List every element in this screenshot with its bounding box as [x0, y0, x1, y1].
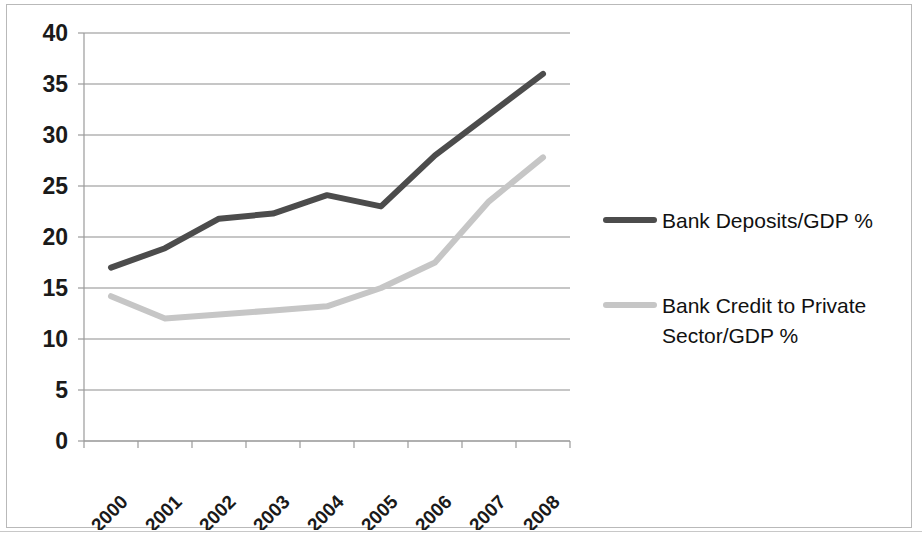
x-tick-label: 2006 [411, 491, 456, 530]
plot-area: 0510152025303540 20002001200220032004200… [0, 0, 922, 530]
series-line-2 [111, 157, 543, 318]
gridlines-group [84, 33, 570, 441]
x-tick-label: 2005 [357, 491, 402, 530]
legend-label-2: Bank Credit to Private [662, 294, 866, 317]
x-tick-label: 2002 [195, 491, 240, 530]
x-axis-ticks-group [84, 441, 570, 448]
chart-container: 0510152025303540 20002001200220032004200… [0, 0, 922, 556]
legend-label-2: Sector/GDP % [662, 324, 798, 347]
series-group [111, 74, 543, 319]
y-tick-label: 25 [42, 173, 68, 199]
y-tick-label: 0 [55, 428, 68, 454]
y-tick-label: 15 [42, 275, 68, 301]
bottom-border-strip [0, 531, 922, 556]
y-tick-label: 10 [42, 326, 68, 352]
line-chart-svg: 0510152025303540 20002001200220032004200… [0, 0, 922, 530]
x-axis-labels-group: 200020012002200320042005200620072008 [87, 491, 564, 530]
y-tick-label: 30 [42, 122, 68, 148]
legend-label-1: Bank Deposits/GDP % [662, 209, 873, 232]
x-tick-label: 2001 [141, 491, 186, 530]
x-tick-label: 2008 [519, 491, 564, 530]
x-tick-label: 2000 [87, 491, 132, 530]
y-tick-label: 20 [42, 224, 68, 250]
x-tick-label: 2003 [249, 491, 294, 530]
x-tick-label: 2007 [465, 491, 510, 530]
chart-legend: Bank Deposits/GDP %Bank Credit to Privat… [606, 209, 873, 347]
y-tick-label: 5 [55, 377, 68, 403]
y-tick-label: 35 [42, 71, 68, 97]
y-axis-ticks-group [78, 33, 84, 441]
y-tick-label: 40 [42, 20, 68, 46]
series-line-1 [111, 74, 543, 268]
y-axis-labels-group: 0510152025303540 [42, 20, 68, 454]
x-tick-label: 2004 [303, 491, 348, 530]
